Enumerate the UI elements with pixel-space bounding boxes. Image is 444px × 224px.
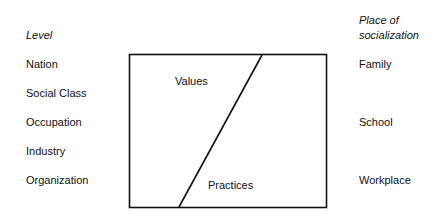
values-label: Values [175,75,208,87]
practices-label: Practices [208,179,253,191]
